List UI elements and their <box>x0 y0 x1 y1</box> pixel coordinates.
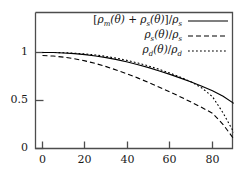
legend-label-sum: [ρm(θ) + ρs(θ)]/ρs <box>93 13 182 28</box>
legend-sample-solid <box>188 16 228 26</box>
x-axis-ticks <box>43 142 213 149</box>
legend-entry-sum: [ρm(θ) + ρs(θ)]/ρs <box>86 13 228 28</box>
legend-sample-dotted <box>188 46 228 56</box>
ytick-label-1: 1 <box>2 45 28 58</box>
curve-rho-s-dashed <box>43 56 234 139</box>
ytick-label-0.5: 0.5 <box>2 93 28 106</box>
legend-sample-dashed <box>188 31 228 41</box>
xtick-label-80: 80 <box>198 153 227 166</box>
legend-label-rho-s: ρs(θ)/ρs <box>144 28 182 43</box>
xtick-label-40: 40 <box>113 153 142 166</box>
y-axis-ticks <box>36 53 44 149</box>
ytick-label-0: 0 <box>2 141 28 154</box>
chart-figure: 1 0.5 0 0 20 40 60 80 [ρm(θ) + ρs(θ)]/ρs… <box>0 0 251 181</box>
xtick-label-20: 20 <box>70 153 99 166</box>
xtick-label-0: 0 <box>28 153 57 166</box>
legend-entry-rho-s: ρs(θ)/ρs <box>86 28 228 43</box>
xtick-label-60: 60 <box>155 153 184 166</box>
legend-label-rho-d: ρd(θ)/ρd <box>143 43 182 58</box>
legend: [ρm(θ) + ρs(θ)]/ρs ρs(θ)/ρs ρd(θ)/ρd <box>86 13 228 58</box>
legend-entry-rho-d: ρd(θ)/ρd <box>86 43 228 58</box>
